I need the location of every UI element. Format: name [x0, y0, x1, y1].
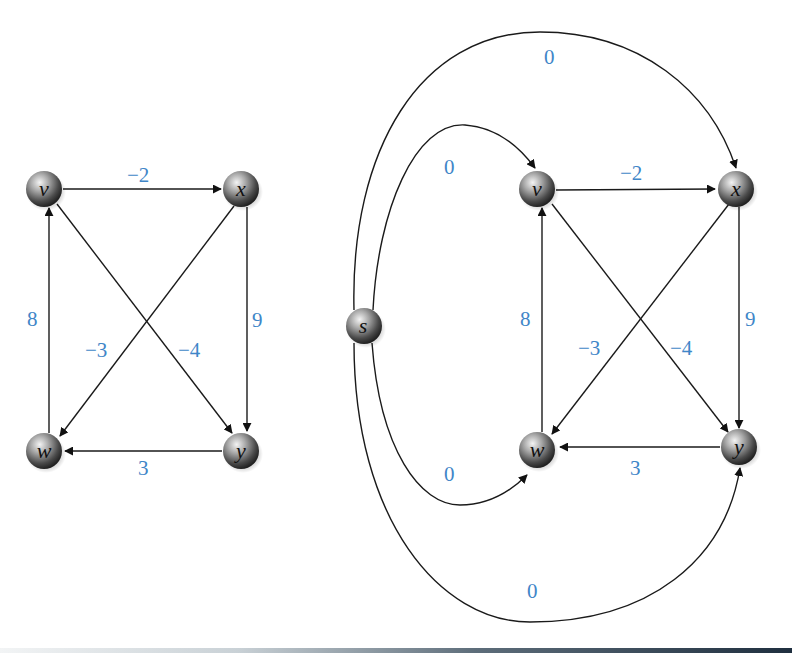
original-graph: −2 9 −3 −4 3 8 v x w y	[26, 163, 263, 480]
weight-s-w: 0	[444, 462, 455, 486]
node-v: v	[519, 171, 559, 211]
weight-s-v: 0	[444, 155, 455, 179]
svg-text:w: w	[530, 437, 545, 462]
weight-x-y: 9	[745, 307, 756, 331]
edge-s-v	[373, 125, 535, 310]
node-s: s	[346, 308, 386, 348]
svg-text:v: v	[532, 176, 542, 201]
weight-s-x: 0	[544, 45, 555, 69]
node-w: w	[519, 432, 559, 472]
svg-text:s: s	[359, 313, 368, 338]
node-v: v	[26, 171, 66, 211]
weight-y-w: 3	[138, 456, 149, 480]
edge-s-y	[354, 343, 740, 622]
weight-v-y: −4	[178, 338, 201, 362]
edge-v-y	[552, 204, 728, 432]
weight-w-v: 8	[27, 307, 38, 331]
weight-s-y: 0	[527, 579, 538, 603]
weight-v-x: −2	[127, 163, 149, 187]
svg-text:y: y	[234, 438, 246, 463]
svg-text:x: x	[730, 176, 741, 201]
weight-v-x: −2	[620, 161, 642, 185]
svg-text:v: v	[39, 176, 49, 201]
node-y: y	[223, 433, 263, 473]
node-x: x	[718, 171, 758, 211]
graph-diagram: −2 9 −3 −4 3 8 v x w y	[0, 0, 792, 653]
node-w: w	[26, 433, 66, 473]
svg-text:x: x	[235, 176, 246, 201]
svg-text:w: w	[37, 438, 52, 463]
edge-v-y	[57, 204, 232, 433]
weight-x-w: −3	[578, 336, 600, 360]
svg-text:y: y	[732, 434, 744, 459]
weight-v-y: −4	[670, 336, 693, 360]
augmented-graph: −2 9 −3 −4 3 8 0 0 0 0 s v x w	[346, 32, 761, 622]
weight-x-w: −3	[85, 338, 107, 362]
weight-x-y: 9	[252, 308, 263, 332]
edge-v-x	[556, 189, 715, 190]
node-y: y	[721, 429, 761, 469]
weight-y-w: 3	[630, 456, 641, 480]
weight-w-v: 8	[520, 307, 531, 331]
bottom-gradient-bar	[0, 648, 792, 653]
node-x: x	[223, 171, 263, 211]
